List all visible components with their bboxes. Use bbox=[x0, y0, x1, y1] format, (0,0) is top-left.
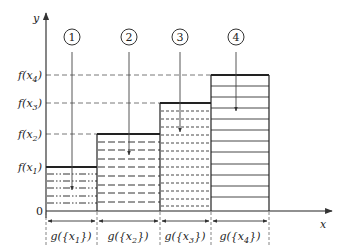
level-label-f-x1: f(x1) bbox=[17, 161, 42, 176]
measure-label-1: g({x1}) bbox=[51, 230, 92, 245]
y-axis-label: y bbox=[32, 12, 40, 25]
marker-2-label: 2 bbox=[126, 31, 133, 44]
bar-4-hatching bbox=[211, 86, 269, 197]
measure-label-4: g({x4}) bbox=[220, 230, 261, 245]
marker-1-label: 1 bbox=[69, 31, 76, 44]
measure-label-3: g({x3}) bbox=[165, 230, 206, 245]
level-label-f-x2: f(x2) bbox=[17, 128, 42, 143]
marker-4-label: 4 bbox=[233, 31, 240, 44]
measure-label-2: g({x2}) bbox=[108, 230, 149, 245]
bar-3-hatching bbox=[161, 111, 211, 206]
lebesgue-step-diagram: 1 2 3 4 y x 0 f(x4) f(x3) f(x2) f(x1) g bbox=[0, 0, 342, 251]
level-label-f-x3: f(x3) bbox=[17, 97, 42, 112]
marker-3: 3 bbox=[172, 29, 188, 132]
marker-2: 2 bbox=[121, 29, 137, 155]
marker-3-label: 3 bbox=[177, 31, 184, 44]
level-label-f-x4: f(x4) bbox=[17, 69, 42, 84]
level-guides bbox=[46, 75, 211, 134]
marker-4: 4 bbox=[228, 29, 244, 111]
marker-1: 1 bbox=[64, 29, 80, 190]
x-axis-label: x bbox=[320, 218, 327, 231]
origin-label: 0 bbox=[36, 205, 43, 218]
